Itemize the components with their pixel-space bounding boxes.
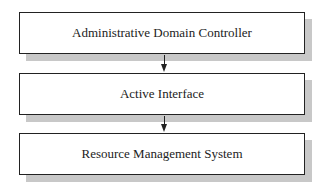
box-active-interface: Active Interface	[19, 73, 305, 115]
box-administrative-domain-controller: Administrative Domain Controller	[19, 12, 305, 54]
arrow-down-icon	[161, 64, 167, 72]
box-label: Active Interface	[120, 86, 204, 102]
arrow-down-icon	[161, 124, 167, 132]
box-label: Administrative Domain Controller	[72, 25, 252, 41]
box-resource-management-system: Resource Management System	[19, 133, 305, 175]
box-label: Resource Management System	[81, 146, 242, 162]
